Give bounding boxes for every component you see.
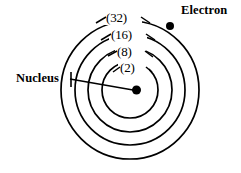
electron-dot <box>166 22 174 30</box>
shell-capacity-label-32: (32) <box>106 11 127 24</box>
atom-diagram-svg <box>0 0 241 173</box>
electron-callout-label: Electron <box>181 4 227 17</box>
shell-capacity-label-16: (16) <box>111 28 132 41</box>
shell-capacity-label-8: (8) <box>117 45 132 58</box>
shell-capacity-label-2: (2) <box>120 61 135 74</box>
nucleus-dot <box>132 86 141 95</box>
atom-diagram-canvas: (32) (16) (8) (2) Electron Nucleus <box>0 0 241 173</box>
nucleus-callout-label: Nucleus <box>16 72 59 85</box>
